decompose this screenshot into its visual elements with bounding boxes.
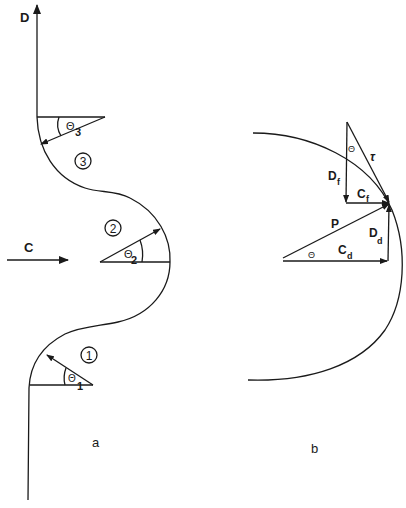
zone1-angle-arc [64,368,66,385]
vector-d-d [388,205,389,261]
d-f-label-sub: f [337,177,341,187]
theta2-subscript: 2 [131,254,137,266]
vector-d-f [346,122,347,202]
zone2-number: 2 [110,222,117,236]
draw-label-d: D [20,10,29,25]
panel-a-caption: a [92,435,100,450]
panel-b: Θ τ D f C f P Θ C d D d b [248,122,402,456]
zone3-angle-arc [58,117,61,136]
flow-label-c: C [24,240,34,255]
vector-tau [347,122,389,202]
d-f-label-main: D [328,169,337,183]
panel-a: D Θ 3 3 Θ 2 2 Θ 1 1 C a [7,5,170,500]
theta3-subscript: 3 [75,126,81,138]
c-f-label-main: C [357,187,366,201]
zone2-angle-arc [140,240,143,262]
panel-b-caption: b [311,441,318,456]
d-d-label-sub: d [377,236,383,246]
theta3-symbol: Θ [66,120,75,132]
theta-lower: Θ [308,250,315,260]
theta-upper: Θ [348,144,355,154]
c-d-label-main: C [338,243,347,257]
zone3-number: 3 [80,155,87,169]
theta1-subscript: 1 [77,380,83,392]
figure-canvas: D Θ 3 3 Θ 2 2 Θ 1 1 C a [0,0,406,508]
contact-arc [248,133,402,380]
theta1-symbol: Θ [68,373,76,384]
c-d-label-sub: d [347,251,353,261]
tau-label: τ [370,150,376,164]
zone1-number: 1 [86,349,93,363]
p-label: P [331,217,339,231]
